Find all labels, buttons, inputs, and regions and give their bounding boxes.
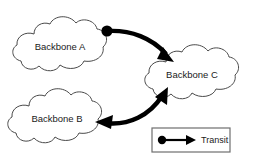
node-label-backbone-b: Backbone B <box>31 113 82 124</box>
node-backbone-a[interactable]: Backbone A <box>13 17 107 71</box>
link-a-to-c-path <box>108 31 166 54</box>
network-diagram-canvas: Backbone A Backbone B Backbone C <box>0 0 258 160</box>
legend[interactable]: Transit <box>152 128 230 152</box>
node-label-backbone-c: Backbone C <box>166 69 218 80</box>
link-b-to-c-path <box>105 96 162 123</box>
node-backbone-c[interactable]: Backbone C <box>145 45 239 99</box>
diagram-svg: Backbone A Backbone B Backbone C <box>0 0 258 160</box>
link-backbone-a-to-backbone-c[interactable] <box>101 25 174 62</box>
legend-label-transit: Transit <box>201 135 229 145</box>
node-backbone-b[interactable]: Backbone B <box>8 89 102 143</box>
node-label-backbone-a: Backbone A <box>35 41 86 52</box>
legend-dot-icon <box>158 136 166 144</box>
link-a-to-c-origin-dot <box>101 25 112 36</box>
